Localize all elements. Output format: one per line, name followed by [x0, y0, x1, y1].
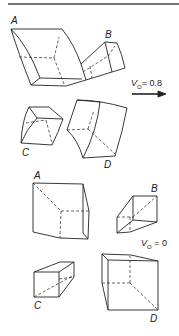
top-cube-a — [11, 29, 86, 86]
velocity-value: 0 — [162, 238, 167, 248]
bottom-cube-b — [117, 196, 157, 233]
figure-drawing — [0, 0, 179, 336]
top-cube-c — [21, 107, 63, 145]
top-cube-b — [81, 42, 125, 80]
bottom-label-c: C — [34, 301, 41, 311]
top-cube-d — [67, 100, 127, 158]
velocity-value: 0.8 — [149, 78, 162, 88]
bottom-cube-a — [33, 183, 89, 239]
top-label-c: C — [22, 148, 29, 158]
relativistic-cubes-figure: A B C D VO= 0.8 A B C D VO = 0 — [0, 0, 179, 336]
equals-sign: = — [142, 78, 147, 88]
velocity-subscript: O — [147, 244, 152, 250]
velocity-label-bottom: VO = 0 — [141, 239, 167, 250]
bottom-label-d: D — [150, 314, 157, 324]
bottom-cube-c — [34, 262, 74, 297]
velocity-label-top: VO= 0.8 — [131, 79, 162, 90]
top-label-b: B — [105, 30, 112, 40]
bottom-label-b: B — [151, 184, 158, 194]
equals-sign: = — [154, 238, 159, 248]
velocity-arrow — [132, 91, 166, 97]
top-label-a: A — [11, 16, 18, 26]
bottom-label-a: A — [34, 171, 41, 181]
top-label-d: D — [104, 160, 111, 170]
bottom-cube-d — [102, 254, 158, 310]
